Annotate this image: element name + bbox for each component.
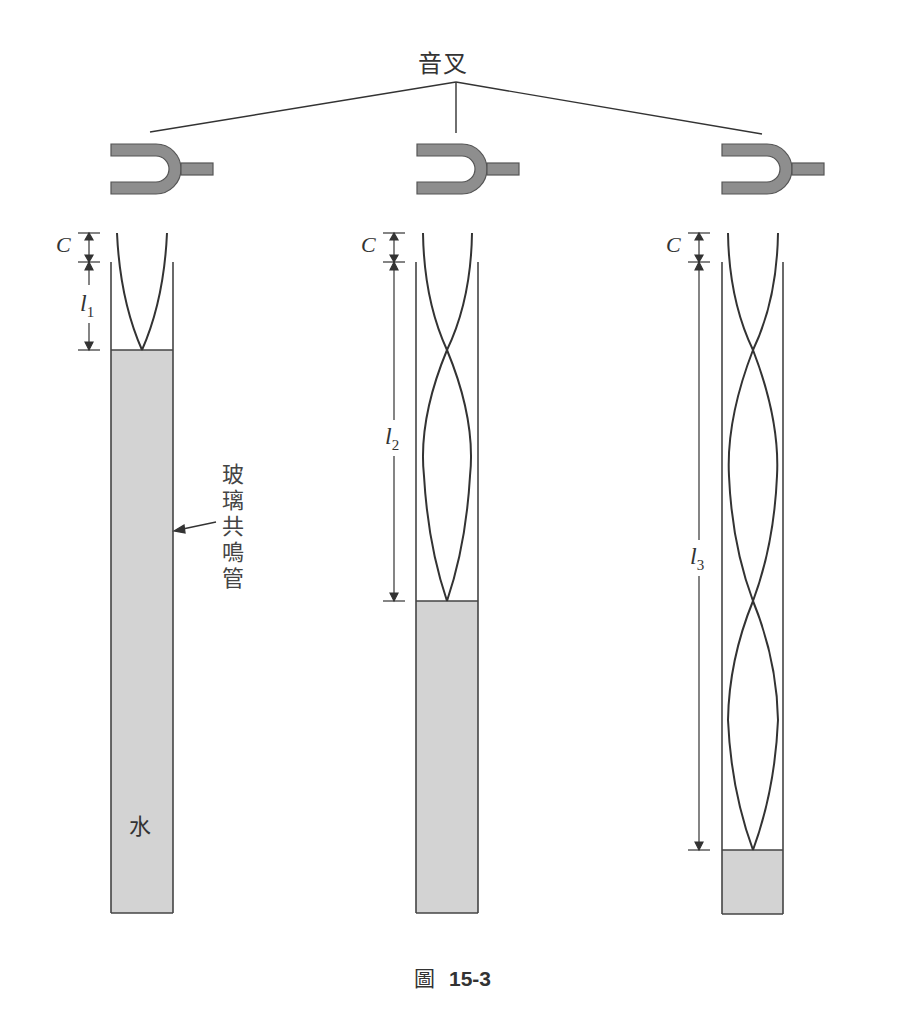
- length-label-3: l3: [690, 541, 704, 576]
- tube-pointer-arrow: [174, 522, 216, 533]
- figure-caption-number: 15-3: [449, 967, 491, 990]
- glass-resonance-tube-label: 玻 璃 共 鳴 管: [222, 462, 248, 592]
- length-label-2: l2: [385, 421, 399, 456]
- fork-pointer-lines: [150, 82, 762, 134]
- water-column: [416, 601, 478, 913]
- tuning-fork-icon: [111, 144, 213, 194]
- end-correction-label-2: C: [361, 232, 376, 258]
- water-label: 水: [129, 808, 151, 840]
- figure-caption-prefix: 圖: [414, 967, 435, 991]
- resonance-tube-diagram: [0, 0, 905, 1014]
- tube-2: [383, 233, 478, 913]
- tuning-fork-icon: [417, 144, 519, 194]
- standing-wave: [728, 233, 778, 850]
- water-column: [722, 850, 783, 914]
- end-correction-label-3: C: [666, 232, 681, 258]
- end-correction-label-1: C: [56, 232, 71, 258]
- length-label-1: l1: [80, 288, 94, 323]
- figure-caption: 圖15-3: [0, 962, 905, 992]
- standing-wave: [117, 233, 167, 350]
- dimension-markers: [383, 233, 405, 601]
- standing-wave: [423, 233, 472, 601]
- tuning-fork-label: 音叉: [418, 44, 468, 79]
- tuning-fork-icon: [722, 144, 824, 194]
